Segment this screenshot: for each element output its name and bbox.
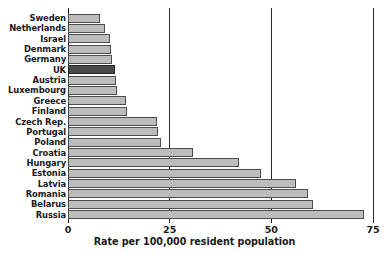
- bar-row: Denmark: [0, 44, 389, 55]
- bar-label-austria: Austria: [33, 75, 66, 86]
- x-tick-mark-0: [68, 219, 69, 223]
- bar-poland: [68, 138, 161, 147]
- bar-label-latvia: Latvia: [38, 179, 66, 190]
- bar-russia: [68, 210, 364, 219]
- bar-label-poland: Poland: [34, 137, 66, 148]
- bar-row: Greece: [0, 96, 389, 107]
- bar-austria: [68, 76, 116, 85]
- bar-romania: [68, 189, 308, 198]
- bar-germany: [68, 55, 112, 64]
- bar-label-denmark: Denmark: [24, 44, 66, 55]
- bar-row: Germany: [0, 54, 389, 65]
- bar-row: Finland: [0, 106, 389, 117]
- bar-label-russia: Russia: [36, 210, 66, 221]
- bar-label-sweden: Sweden: [30, 13, 67, 24]
- bar-denmark: [68, 45, 111, 54]
- bar-croatia: [68, 148, 193, 157]
- bar-label-romania: Romania: [26, 189, 66, 200]
- bar-row: Romania: [0, 189, 389, 200]
- bar-row: Croatia: [0, 148, 389, 159]
- bar-israel: [68, 34, 110, 43]
- bar-sweden: [68, 14, 100, 23]
- bar-label-belarus: Belarus: [31, 199, 66, 210]
- x-tick-mark-25: [169, 219, 170, 223]
- bar-row: Poland: [0, 137, 389, 148]
- bar-row: Israel: [0, 34, 389, 45]
- bar-row: Portugal: [0, 127, 389, 138]
- x-axis-line: [68, 219, 374, 220]
- bar-greece: [68, 96, 126, 105]
- x-tick-mark-50: [271, 219, 272, 223]
- x-tick-label-50: 50: [265, 224, 278, 235]
- bar-row: Latvia: [0, 179, 389, 190]
- bar-label-croatia: Croatia: [32, 148, 66, 159]
- bar-portugal: [68, 127, 158, 136]
- x-tick-label-75: 75: [366, 224, 379, 235]
- plot-area: SwedenNetherlandsIsraelDenmarkGermanyUKA…: [0, 0, 389, 254]
- bar-luxembourg: [68, 86, 117, 95]
- bar-row: Luxembourg: [0, 85, 389, 96]
- bar-belarus: [68, 200, 313, 209]
- bar-row: Czech Rep.: [0, 117, 389, 128]
- bar-row: UK: [0, 65, 389, 76]
- bar-label-estonia: Estonia: [32, 168, 66, 179]
- bar-label-czech-rep: Czech Rep.: [15, 117, 66, 128]
- x-tick-label-25: 25: [163, 224, 176, 235]
- bar-estonia: [68, 169, 261, 178]
- bar-row: Hungary: [0, 158, 389, 169]
- bar-uk: [68, 65, 115, 74]
- bar-row: Sweden: [0, 13, 389, 24]
- bar-label-finland: Finland: [32, 106, 66, 117]
- bar-label-israel: Israel: [40, 34, 66, 45]
- bar-finland: [68, 107, 127, 116]
- bar-row: Belarus: [0, 199, 389, 210]
- bar-hungary: [68, 158, 239, 167]
- bar-row: Estonia: [0, 168, 389, 179]
- bar-label-hungary: Hungary: [27, 158, 66, 169]
- bar-label-portugal: Portugal: [26, 127, 66, 138]
- x-tick-mark-75: [373, 219, 374, 223]
- x-axis-title: Rate per 100,000 resident population: [0, 236, 389, 247]
- bar-label-greece: Greece: [34, 96, 66, 107]
- bar-label-netherlands: Netherlands: [9, 23, 66, 34]
- bar-label-germany: Germany: [24, 54, 66, 65]
- bar-czech-rep: [68, 117, 157, 126]
- bar-row: Austria: [0, 75, 389, 86]
- bar-row: Netherlands: [0, 23, 389, 34]
- bar-latvia: [68, 179, 296, 188]
- bar-netherlands: [68, 24, 105, 33]
- bar-chart: SwedenNetherlandsIsraelDenmarkGermanyUKA…: [0, 0, 389, 254]
- x-tick-label-0: 0: [65, 224, 72, 235]
- bar-label-luxembourg: Luxembourg: [8, 85, 66, 96]
- bar-label-uk: UK: [53, 65, 66, 76]
